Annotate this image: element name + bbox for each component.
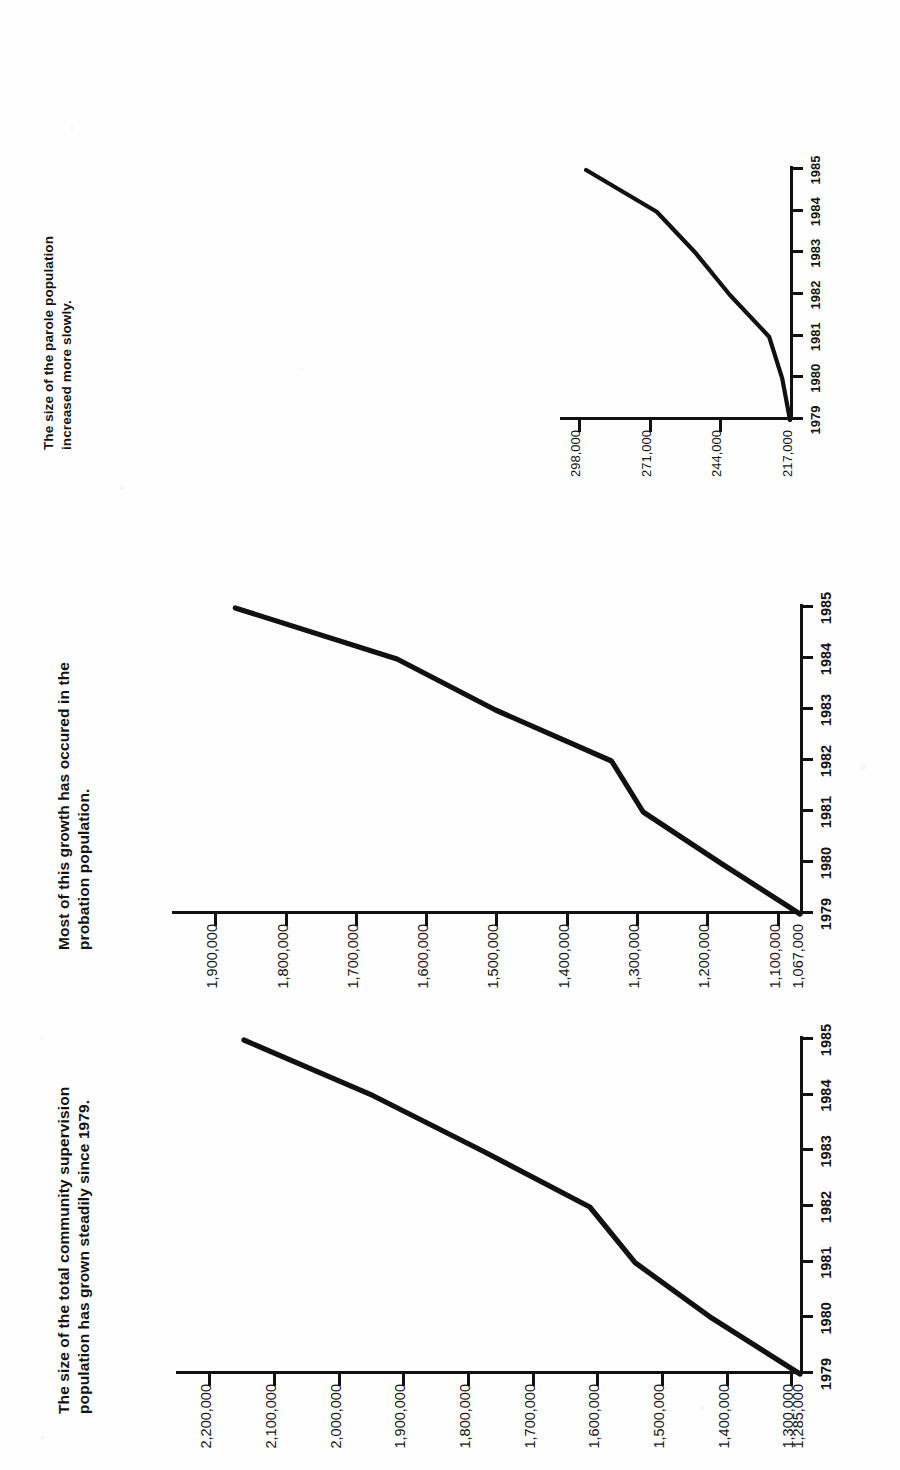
y-axis-label: 1,800,000	[457, 1384, 473, 1470]
x-axis-tick	[790, 250, 803, 253]
x-axis-tick	[800, 1315, 813, 1318]
y-axis-label: 1,100,000	[767, 924, 783, 1084]
x-axis-tick	[800, 809, 813, 812]
y-axis-label: 271,000	[639, 430, 654, 590]
y-axis-label: 1,300,000	[780, 1384, 796, 1470]
series-line-probation	[0, 570, 900, 1000]
data-line	[244, 1040, 800, 1374]
scan-speck	[860, 764, 866, 770]
y-axis-label: 1,700,000	[345, 924, 361, 1084]
y-axis-label: 217,000	[780, 430, 795, 590]
x-axis-tick	[800, 605, 813, 608]
x-axis-label: 1984	[818, 633, 834, 685]
y-axis-label: 298,000	[568, 430, 583, 590]
x-axis-label: 1983	[818, 684, 834, 736]
y-axis-label: 1,700,000	[522, 1384, 538, 1470]
y-axis-label: 1,600,000	[415, 924, 431, 1084]
x-axis-tick	[790, 375, 803, 378]
y-axis-label: 1,400,000	[556, 924, 572, 1084]
x-axis-tick	[790, 167, 803, 170]
x-axis-tick	[790, 334, 803, 337]
x-axis-tick	[800, 758, 813, 761]
x-axis-label: 1982	[818, 735, 834, 787]
x-axis-tick	[800, 1093, 813, 1096]
y-axis-label: 1,500,000	[651, 1384, 667, 1470]
y-axis-label: 1,600,000	[586, 1384, 602, 1470]
y-axis-label: 1,200,000	[696, 924, 712, 1084]
scan-speck	[70, 126, 74, 130]
x-axis-label: 1981	[818, 786, 834, 838]
x-axis-label: 1981	[818, 1237, 834, 1289]
y-axis-label: 1,500,000	[485, 924, 501, 1084]
y-axis-label: 1,900,000	[392, 1384, 408, 1470]
scan-speck	[820, 1246, 824, 1250]
x-axis-label: 1985	[818, 582, 834, 634]
scan-speck	[120, 485, 125, 490]
series-line-total	[0, 1000, 900, 1470]
data-line	[586, 170, 790, 420]
x-axis-tick	[790, 292, 803, 295]
scan-speck	[700, 1406, 704, 1410]
chart-total-community-supervision: The size of the total community supervis…	[0, 1000, 900, 1470]
x-axis-label: 1984	[818, 1070, 834, 1122]
y-axis-label: 1,067,000	[790, 924, 806, 1084]
x-axis-tick	[800, 860, 813, 863]
x-axis-tick	[800, 656, 813, 659]
scan-speck	[40, 1037, 43, 1040]
page-sheet: The size of the total community supervis…	[0, 0, 900, 1470]
x-axis-label: 1985	[808, 144, 823, 196]
y-axis-line	[560, 417, 793, 420]
y-axis-label: 1,800,000	[275, 924, 291, 1084]
x-axis-label: 1985	[818, 1014, 834, 1066]
y-axis-label: 1,400,000	[716, 1384, 732, 1470]
data-line	[235, 608, 800, 914]
x-axis-tick	[800, 1148, 813, 1151]
x-axis-tick	[800, 1260, 813, 1263]
y-axis-line	[176, 1371, 803, 1374]
y-axis-label: 2,000,000	[328, 1384, 344, 1470]
scan-speck	[300, 367, 303, 370]
y-axis-label: 2,100,000	[263, 1384, 279, 1470]
x-axis-label: 1979	[818, 888, 834, 940]
x-axis-label: 1980	[818, 837, 834, 889]
chart-probation-population: Most of this growth has occured in the p…	[0, 570, 900, 1000]
scan-speck	[40, 1435, 45, 1440]
x-axis-label: 1980	[818, 1292, 834, 1344]
x-axis-label: 1979	[818, 1348, 834, 1400]
x-axis-tick	[790, 209, 803, 212]
y-axis-label: 2,200,000	[198, 1384, 214, 1470]
x-axis-tick	[800, 707, 813, 710]
x-axis-label: 1983	[818, 1125, 834, 1177]
x-axis-label: 1982	[818, 1181, 834, 1233]
x-axis-tick	[800, 1204, 813, 1207]
y-axis-label: 244,000	[709, 430, 724, 590]
chart-parole-population: The size of the parole population increa…	[0, 0, 900, 570]
series-line-parole	[0, 0, 900, 570]
y-axis-label: 1,300,000	[626, 924, 642, 1084]
scanned-page: The size of the total community supervis…	[0, 0, 900, 1470]
y-axis-label: 1,900,000	[204, 924, 220, 1084]
